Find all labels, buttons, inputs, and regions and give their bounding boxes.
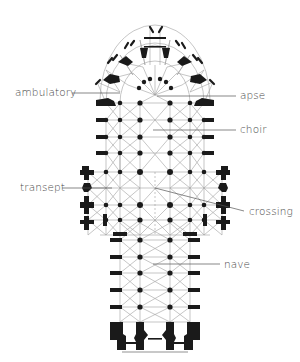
label-apse: apse: [240, 89, 265, 101]
vault-ribs: [88, 25, 222, 322]
label-transept: transept: [20, 181, 65, 193]
label-ambulatory: ambulatory: [15, 86, 76, 98]
west-facade: [110, 322, 200, 350]
label-choir: choir: [240, 123, 267, 135]
crossing-leader: [155, 188, 244, 211]
label-crossing: crossing: [249, 205, 293, 217]
facade-threshold: [122, 351, 188, 353]
leader-lines: [62, 93, 244, 264]
label-nave: nave: [224, 258, 250, 270]
